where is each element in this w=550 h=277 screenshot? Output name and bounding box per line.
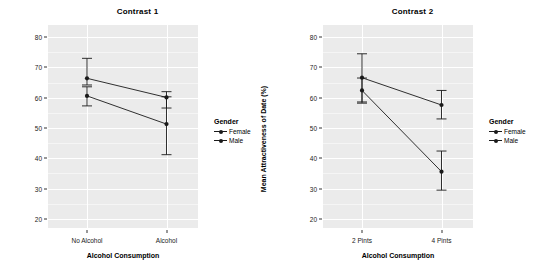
legend-item-label: Female (504, 128, 526, 135)
y-axis-tick-mark (44, 158, 47, 159)
x-axis-tick-mark (166, 230, 167, 233)
x-axis-tick-label: 4 Pints (432, 237, 452, 244)
y-axis-tick-label: 30 (35, 185, 42, 192)
y-axis-tick-mark (319, 158, 322, 159)
y-axis-tick-label: 30 (310, 185, 317, 192)
data-point[interactable] (85, 76, 89, 80)
x-axis-title: Alcohol Consumption (48, 252, 198, 259)
plot-area (48, 25, 198, 228)
x-axis-tick-mark (362, 230, 363, 233)
y-axis-tick-label: 70 (35, 64, 42, 71)
series-male (357, 78, 447, 190)
legend-item-female[interactable]: Female (214, 127, 251, 136)
y-axis-tick-mark (319, 67, 322, 68)
x-axis-tick-label: No Alcohol (71, 237, 102, 244)
chart-panel-contrast-1: Contrast 1 Mean Attractiveness of Date (… (0, 0, 275, 277)
x-axis-tick-label: Alcohol (156, 237, 177, 244)
y-axis-tick-label: 60 (310, 94, 317, 101)
series-layer (323, 25, 473, 228)
legend-title: Gender (214, 118, 251, 125)
y-axis-tick-mark (319, 218, 322, 219)
y-axis-tick-label: 20 (35, 215, 42, 222)
data-point[interactable] (439, 103, 443, 107)
y-axis-tick-mark (44, 188, 47, 189)
chart-title: Contrast 2 (275, 7, 550, 16)
chart-panel-contrast-2: Contrast 2 Mean Attractiveness of Date (… (275, 0, 550, 277)
y-axis-tick-label: 40 (35, 155, 42, 162)
y-axis-tick-mark (319, 188, 322, 189)
legend-item-label: Female (229, 128, 251, 135)
figure-canvas: Contrast 1 Mean Attractiveness of Date (… (0, 0, 550, 277)
data-point[interactable] (439, 170, 443, 174)
legend-item-label: Male (229, 137, 243, 144)
legend-item-label: Male (504, 137, 518, 144)
legend-point-line-icon (489, 127, 502, 136)
y-axis-tick-label: 40 (310, 155, 317, 162)
plot-area (323, 25, 473, 228)
y-axis-tick-mark (44, 67, 47, 68)
y-axis-tick-label: 70 (310, 64, 317, 71)
series-female (82, 58, 172, 108)
x-axis-tick-label: 2 Pints (352, 237, 372, 244)
legend-title: Gender (489, 118, 526, 125)
legend-point-line-icon (489, 136, 502, 145)
legend-item-female[interactable]: Female (489, 127, 526, 136)
data-point[interactable] (85, 94, 89, 98)
y-axis-tick-label: 50 (310, 125, 317, 132)
data-point[interactable] (360, 88, 364, 92)
series-line (362, 90, 442, 171)
y-axis-tick-mark (319, 97, 322, 98)
legend-item-male[interactable]: Male (489, 136, 526, 145)
legend-point-line-icon (214, 136, 227, 145)
y-axis-tick-label: 80 (35, 34, 42, 41)
y-axis-tick-label: 50 (35, 125, 42, 132)
y-axis-tick-mark (44, 128, 47, 129)
y-axis-tick-mark (44, 97, 47, 98)
series-male (82, 87, 172, 155)
x-axis-title: Alcohol Consumption (323, 252, 473, 259)
legend: Gender Female Male (489, 118, 526, 145)
x-axis-tick-mark (87, 230, 88, 233)
y-axis-tick-mark (319, 128, 322, 129)
y-axis-tick-mark (44, 37, 47, 38)
error-bar (82, 58, 92, 85)
y-axis-tick-label: 20 (310, 215, 317, 222)
x-axis-tick-mark (441, 230, 442, 233)
y-axis-tick-mark (44, 218, 47, 219)
data-point[interactable] (164, 122, 168, 126)
series-female (357, 54, 447, 119)
y-axis-tick-mark (319, 37, 322, 38)
y-axis-tick-label: 60 (35, 94, 42, 101)
chart-title: Contrast 1 (0, 7, 275, 16)
y-axis-title: Mean Attractiveness of Date (%) (260, 85, 267, 191)
series-line (87, 78, 167, 97)
series-line (362, 78, 442, 105)
series-line (87, 96, 167, 124)
legend-point-line-icon (214, 127, 227, 136)
legend-item-male[interactable]: Male (214, 136, 251, 145)
y-axis-tick-label: 80 (310, 34, 317, 41)
legend: Gender Female Male (214, 118, 251, 145)
series-layer (48, 25, 198, 228)
